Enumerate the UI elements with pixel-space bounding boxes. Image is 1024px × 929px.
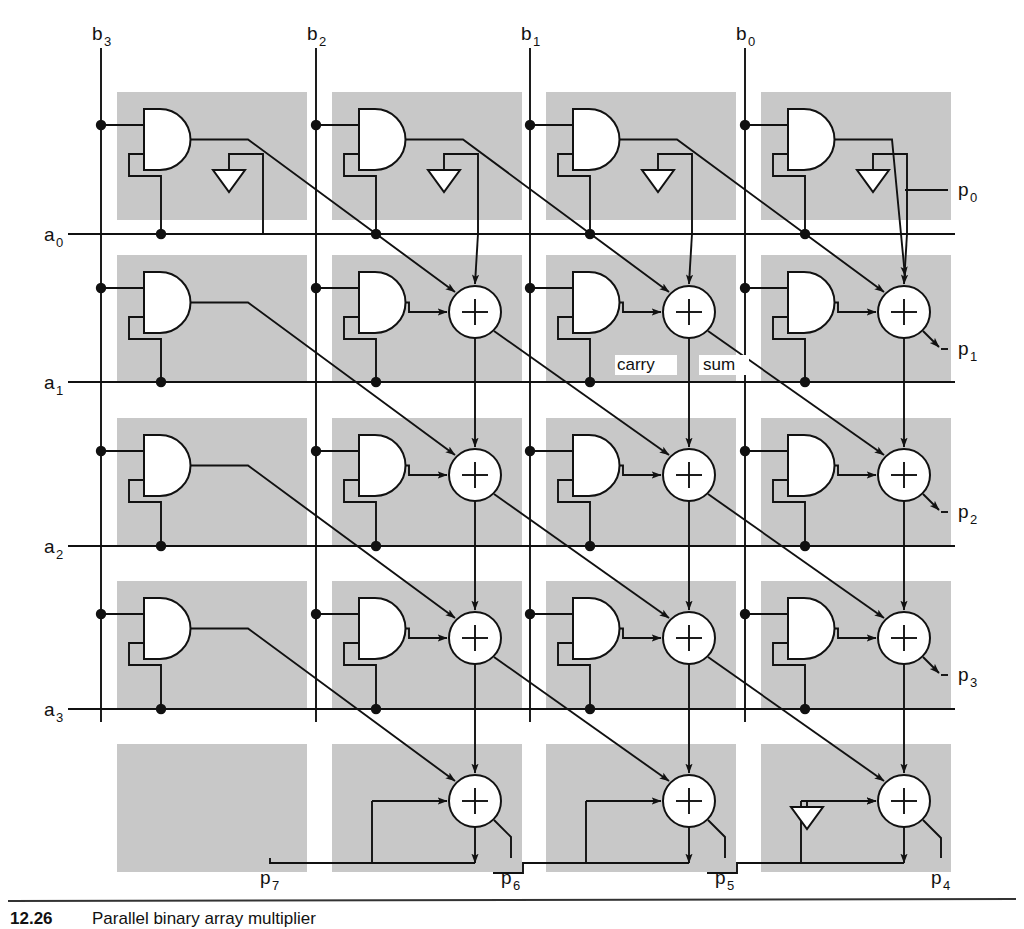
b-tap-r2-c3 xyxy=(740,446,750,456)
p-label-p2-base: p xyxy=(958,501,969,522)
caption-rule xyxy=(8,899,1016,901)
a-tap-r0-c0 xyxy=(156,229,166,239)
a-tap-r3-c0 xyxy=(156,704,166,714)
b-tap-r0-c2 xyxy=(525,120,535,130)
a-label-a2-base: a xyxy=(44,536,55,557)
b-label-b1: b1 xyxy=(521,23,540,49)
a-label-a2-subscript: 2 xyxy=(56,547,63,562)
a-tap-r1-c3 xyxy=(800,377,810,387)
a-tap-r1-c2 xyxy=(585,377,595,387)
p-label-p4-base: p xyxy=(931,867,942,888)
p-label-p0-subscript: 0 xyxy=(970,190,977,205)
a-label-a3-subscript: 3 xyxy=(56,710,63,725)
a-label-a1-base: a xyxy=(44,372,55,393)
p-label-p5-subscript: 5 xyxy=(727,878,734,893)
a-label-a3-base: a xyxy=(44,699,55,720)
caption-text: Parallel binary array multiplier xyxy=(92,909,316,928)
b-label-b2-subscript: 2 xyxy=(319,34,326,49)
b-label-b3-subscript: 3 xyxy=(104,34,111,49)
p-label-p7-subscript: 7 xyxy=(272,878,279,893)
a-tap-r2-c3 xyxy=(800,541,810,551)
a-tap-r0-c2 xyxy=(585,229,595,239)
p-label-p5-base: p xyxy=(715,867,726,888)
p-label-p1-subscript: 1 xyxy=(970,349,977,364)
a-tap-r2-c2 xyxy=(585,541,595,551)
b-tap-r3-c2 xyxy=(525,609,535,619)
b-tap-r0-c3 xyxy=(740,120,750,130)
b-label-b3: b3 xyxy=(92,23,111,49)
a-label-a1: a1 xyxy=(44,372,63,398)
a-label-a1-subscript: 1 xyxy=(56,383,63,398)
p-label-p3-base: p xyxy=(958,664,969,685)
b-label-b0: b0 xyxy=(736,23,755,49)
p-label-p3-subscript: 3 xyxy=(970,675,977,690)
b-tap-r1-c1 xyxy=(311,283,321,293)
b-tap-r1-c3 xyxy=(740,283,750,293)
a-tap-r1-c1 xyxy=(371,377,381,387)
a-tap-r3-c1 xyxy=(371,704,381,714)
a-label-a0: a0 xyxy=(44,224,63,250)
b-tap-r2-c2 xyxy=(525,446,535,456)
a-label-a0-subscript: 0 xyxy=(56,235,63,250)
array-multiplier-figure: b3b2b1b0a0a1a2a3p0p1p2p3p7p6p5p4carrysum… xyxy=(0,0,1024,929)
p-label-p3: p3 xyxy=(958,664,977,690)
p-label-p6-base: p xyxy=(501,867,512,888)
p-label-p6-subscript: 6 xyxy=(513,878,520,893)
p-label-p4-subscript: 4 xyxy=(943,878,950,893)
carry-label: carry xyxy=(617,355,655,374)
b-tap-r2-c1 xyxy=(311,446,321,456)
p-label-p0: p0 xyxy=(958,179,977,205)
a-tap-r2-c0 xyxy=(156,541,166,551)
a-tap-r2-c1 xyxy=(371,541,381,551)
p-label-p0-base: p xyxy=(958,179,969,200)
b-tap-r3-c0 xyxy=(96,609,106,619)
a-tap-r3-c2 xyxy=(585,704,595,714)
b-label-b1-subscript: 1 xyxy=(533,34,540,49)
b-label-b0-base: b xyxy=(736,23,747,44)
b-label-b3-base: b xyxy=(92,23,103,44)
b-tap-r3-c3 xyxy=(740,609,750,619)
b-label-b1-base: b xyxy=(521,23,532,44)
b-tap-r2-c0 xyxy=(96,446,106,456)
b-tap-r0-c0 xyxy=(96,120,106,130)
p-label-p2: p2 xyxy=(958,501,977,527)
a-tap-r0-c3 xyxy=(800,229,810,239)
b-tap-r1-c0 xyxy=(96,283,106,293)
b-tap-r1-c2 xyxy=(525,283,535,293)
a-label-a0-base: a xyxy=(44,224,55,245)
sum-label: sum xyxy=(703,355,735,374)
b-tap-r3-c1 xyxy=(311,609,321,619)
a-label-a3: a3 xyxy=(44,699,63,725)
b-tap-r0-c1 xyxy=(311,120,321,130)
b-label-b0-subscript: 0 xyxy=(748,34,755,49)
a-tap-r1-c0 xyxy=(156,377,166,387)
p-label-p7-base: p xyxy=(260,867,271,888)
a-tap-r0-c1 xyxy=(371,229,381,239)
caption-number: 12.26 xyxy=(10,909,53,928)
p-label-p1-base: p xyxy=(958,338,969,359)
b-label-b2-base: b xyxy=(307,23,318,44)
a-tap-r3-c3 xyxy=(800,704,810,714)
a-label-a2: a2 xyxy=(44,536,63,562)
p-label-p2-subscript: 2 xyxy=(970,512,977,527)
p-label-p1: p1 xyxy=(958,338,977,364)
cell-r4-c0 xyxy=(117,744,307,872)
b-label-b2: b2 xyxy=(307,23,326,49)
